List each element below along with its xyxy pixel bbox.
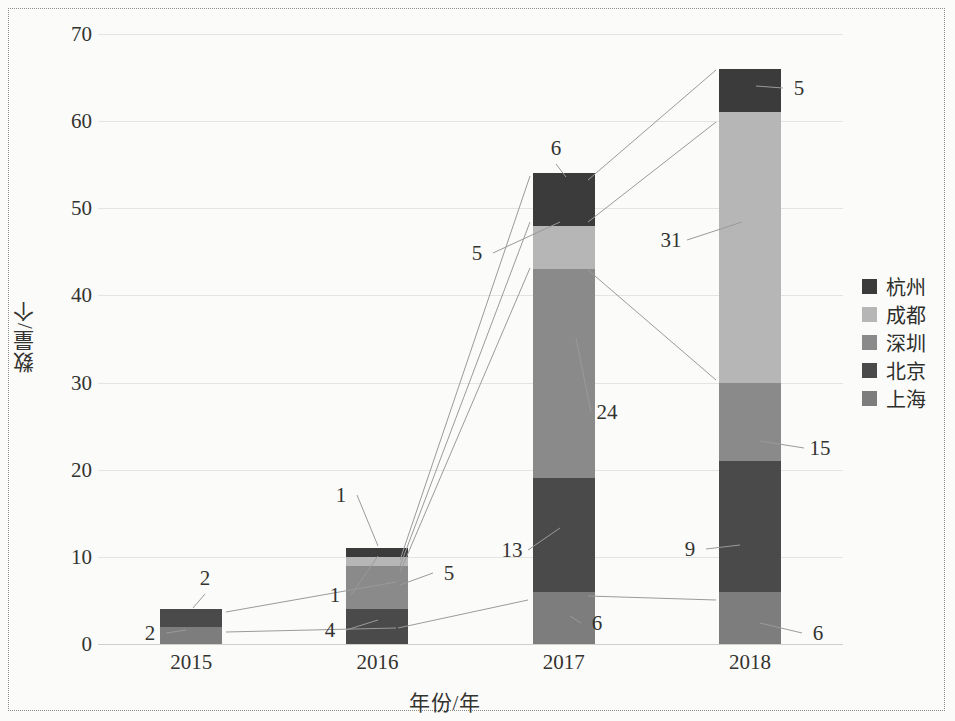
- bar-segment[interactable]: [719, 69, 781, 113]
- data-label: 5: [794, 78, 805, 99]
- legend-item-label: 北京: [886, 356, 926, 385]
- bar-segment[interactable]: [533, 478, 595, 591]
- bar-segment[interactable]: [346, 548, 408, 557]
- data-label: 6: [551, 138, 562, 159]
- data-label: 5: [444, 563, 455, 584]
- bar-segment[interactable]: [719, 383, 781, 461]
- bar-segment[interactable]: [346, 609, 408, 644]
- bar-segment[interactable]: [533, 173, 595, 225]
- gridline: [98, 644, 843, 645]
- legend-item[interactable]: 北京: [862, 356, 948, 384]
- bar-stack[interactable]: [533, 34, 595, 644]
- y-axis-tick-label: 0: [82, 634, 93, 655]
- bar-segment[interactable]: [533, 592, 595, 644]
- bar-segment[interactable]: [346, 557, 408, 566]
- legend-item[interactable]: 深圳: [862, 328, 948, 356]
- legend-item-label: 杭州: [886, 272, 926, 301]
- legend-item-label: 成都: [886, 300, 926, 329]
- bar-segment[interactable]: [160, 609, 222, 626]
- bar-segment[interactable]: [719, 461, 781, 592]
- legend-swatch-icon: [862, 363, 877, 378]
- legend: 杭州成都深圳北京上海: [862, 272, 948, 412]
- legend-item-label: 上海: [886, 384, 926, 413]
- legend-swatch-icon: [862, 335, 877, 350]
- bar-segment[interactable]: [719, 592, 781, 644]
- x-axis-tick-label: 2018: [729, 650, 771, 675]
- bar-segment[interactable]: [346, 566, 408, 610]
- bar-segment[interactable]: [719, 112, 781, 382]
- data-label: 13: [502, 540, 523, 561]
- bar-stack[interactable]: [719, 34, 781, 644]
- y-axis-tick-label: 20: [71, 459, 92, 480]
- data-label: 1: [330, 585, 341, 606]
- data-label: 9: [685, 539, 696, 560]
- x-axis-tick-labels: 2015201620172018: [98, 650, 843, 680]
- y-axis-tick-label: 40: [71, 285, 92, 306]
- data-label: 31: [661, 230, 682, 251]
- bar-segment[interactable]: [533, 226, 595, 270]
- data-label: 6: [592, 613, 603, 634]
- x-axis-tick-label: 2017: [543, 650, 585, 675]
- chart-figure: 数量/个 706050403020100 2015201620172018 年份…: [0, 0, 955, 721]
- y-axis-tick-label: 10: [71, 546, 92, 567]
- legend-item-label: 深圳: [886, 328, 926, 357]
- bar-segment[interactable]: [160, 627, 222, 644]
- data-label: 1: [336, 485, 347, 506]
- x-axis-title: 年份/年: [0, 686, 890, 716]
- data-label: 2: [200, 568, 211, 589]
- bar-segment[interactable]: [533, 269, 595, 478]
- y-axis-tick-label: 60: [71, 111, 92, 132]
- legend-swatch-icon: [862, 391, 877, 406]
- y-axis-title: 数量/个: [10, 300, 40, 373]
- legend-item[interactable]: 上海: [862, 384, 948, 412]
- data-label: 15: [810, 438, 831, 459]
- legend-item[interactable]: 成都: [862, 300, 948, 328]
- legend-swatch-icon: [862, 279, 877, 294]
- x-axis-tick-label: 2015: [170, 650, 212, 675]
- data-label: 4: [325, 620, 336, 641]
- plot-area: [98, 34, 843, 644]
- y-axis-tick-labels: 706050403020100: [48, 34, 92, 644]
- legend-item[interactable]: 杭州: [862, 272, 948, 300]
- legend-swatch-icon: [862, 307, 877, 322]
- data-label: 5: [472, 243, 483, 264]
- data-label: 24: [597, 402, 618, 423]
- y-axis-tick-label: 30: [71, 372, 92, 393]
- data-label: 6: [813, 623, 824, 644]
- bar-stack[interactable]: [346, 34, 408, 644]
- y-axis-tick-label: 50: [71, 198, 92, 219]
- bar-stack[interactable]: [160, 34, 222, 644]
- x-axis-tick-label: 2016: [356, 650, 398, 675]
- y-axis-tick-label: 70: [71, 24, 92, 45]
- data-label: 2: [145, 623, 156, 644]
